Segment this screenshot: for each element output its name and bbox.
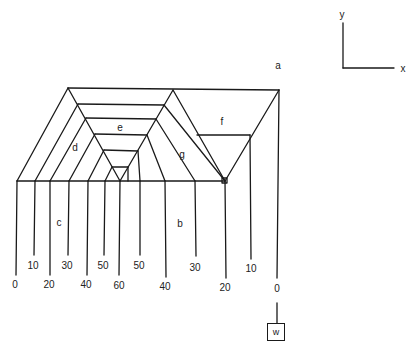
region-label-e: e — [117, 123, 123, 133]
axis-y-label: y — [340, 10, 345, 20]
region-f-lines — [197, 90, 279, 181]
strand-value: 40 — [80, 280, 91, 290]
region-label-g: g — [179, 150, 185, 160]
strand-value: 50 — [133, 261, 144, 271]
region-label-d: d — [72, 143, 78, 153]
region-label-f: f — [221, 117, 224, 127]
axis-x-label: x — [401, 64, 406, 74]
strand-value: 10 — [27, 261, 38, 271]
strand-value: 0 — [12, 280, 18, 290]
region-label-b: b — [177, 219, 183, 229]
strand-value: 30 — [61, 261, 72, 271]
strand-diagram — [0, 0, 418, 357]
axes-indicator — [343, 23, 394, 68]
region-label-c: c — [57, 218, 62, 228]
vertical-strands — [16, 90, 279, 323]
weight-label: w — [273, 327, 280, 337]
strand-value: 10 — [245, 264, 256, 274]
strand-value: 40 — [159, 282, 170, 292]
strand-value: 20 — [43, 280, 54, 290]
hexagon-rungs — [78, 104, 164, 167]
strand-value: 30 — [189, 263, 200, 273]
region-label-a: a — [275, 61, 281, 71]
strand-value: 60 — [113, 281, 124, 291]
strand-value: 20 — [219, 283, 230, 293]
strand-value: 0 — [274, 284, 280, 294]
weight-box: w — [267, 323, 285, 341]
strand-value: 50 — [97, 261, 108, 271]
